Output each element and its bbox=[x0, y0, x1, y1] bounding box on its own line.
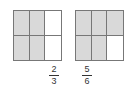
grid-cell bbox=[45, 11, 61, 36]
fraction-label-right: 5 6 bbox=[81, 65, 93, 86]
grid-cell bbox=[45, 36, 61, 61]
grid-cell bbox=[14, 11, 30, 36]
grid-cell bbox=[92, 36, 108, 61]
grid-cell bbox=[76, 36, 92, 61]
fraction-label-left: 2 3 bbox=[48, 65, 60, 86]
grid-cell bbox=[14, 36, 30, 61]
denominator: 3 bbox=[51, 76, 56, 86]
numerator: 2 bbox=[51, 64, 56, 74]
grid-cell bbox=[92, 11, 108, 36]
numerator: 5 bbox=[84, 64, 89, 74]
grid-cell bbox=[30, 36, 46, 61]
fraction-grid-right bbox=[75, 10, 124, 61]
grid-cell bbox=[76, 11, 92, 36]
grid-cell bbox=[30, 11, 46, 36]
fraction-grid-left bbox=[13, 10, 62, 61]
grid-cell bbox=[107, 36, 123, 61]
grid-cell bbox=[107, 11, 123, 36]
denominator: 6 bbox=[84, 76, 89, 86]
